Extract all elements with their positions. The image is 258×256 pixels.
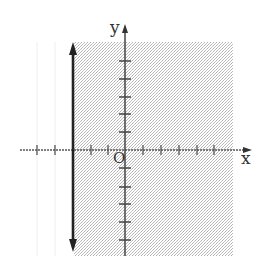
- x-axis-label: x: [241, 150, 251, 167]
- coordinate-plane: y x O: [0, 0, 258, 256]
- shaded-region: [74, 42, 233, 256]
- y-axis-label: y: [110, 19, 120, 36]
- faint-grid: [37, 42, 55, 256]
- origin-label: O: [113, 151, 125, 166]
